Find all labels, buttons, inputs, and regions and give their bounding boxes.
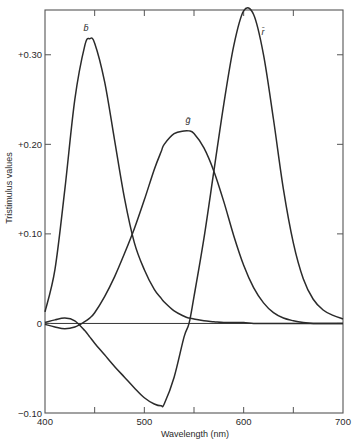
y-tick-label: +0.20 xyxy=(18,139,42,150)
x-tick-label: 600 xyxy=(236,416,252,427)
x-tick-label: 700 xyxy=(335,416,351,427)
x-tick-label: 500 xyxy=(136,416,152,427)
y-tick-label: +0.30 xyxy=(18,49,42,60)
curve-label-g-bar: ḡ xyxy=(185,115,190,125)
tristimulus-chart: 400500600700−0.100+0.10+0.20+0.30 Wavele… xyxy=(0,0,353,443)
y-axis-title: Tristimulus values xyxy=(4,152,14,224)
y-tick-label: +0.10 xyxy=(18,228,42,239)
curve-label-b-bar: b̄ xyxy=(83,23,88,33)
y-tick-label: −0.10 xyxy=(18,408,42,419)
y-tick-label: 0 xyxy=(37,318,42,329)
chart-background xyxy=(0,0,353,443)
x-axis-title: Wavelength (nm) xyxy=(161,429,229,439)
